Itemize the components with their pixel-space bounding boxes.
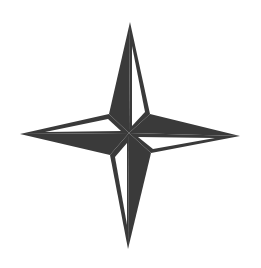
compass-star-icon (0, 0, 261, 268)
west-arm (20, 114, 129, 155)
image-canvas: Four-pointed compass star (0, 0, 261, 268)
north-arm-dark-half (109, 22, 130, 133)
east-arm (129, 114, 240, 153)
south-arm-dark-half (128, 133, 151, 249)
south-arm (110, 133, 151, 249)
north-arm (109, 22, 150, 133)
west-arm-dark-half (20, 133, 129, 155)
